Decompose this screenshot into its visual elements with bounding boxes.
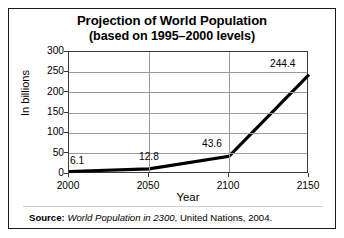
x-axis-title: Year [68,191,308,203]
source-rest: , United Nations, 2004. [175,212,273,223]
x-axis-tick-mark [228,173,229,177]
y-axis-tick-label: 200 [38,87,64,97]
plot-area [68,51,308,173]
data-point-label: 244.4 [270,59,296,69]
x-axis-tick-label: 2100 [205,181,251,191]
x-axis-tick-mark [308,173,309,177]
y-axis-tick-mark [64,132,68,133]
y-axis-tick-label: 0 [38,168,64,178]
x-axis-tick-label: 2050 [125,181,171,191]
source-label: Source: [29,212,65,223]
gridline-horizontal [69,92,307,93]
y-axis-tick-label: 100 [38,127,64,137]
y-axis-tick-label: 300 [38,46,64,56]
y-axis-tick-mark [64,51,68,52]
chart-title-subtitle: (based on 1995–2000 levels) [9,29,335,44]
chart-title-line-1: Projection of World Population [9,13,335,29]
gridline-horizontal [69,153,307,154]
gridline-horizontal [69,133,307,134]
x-axis-tick-label: 2150 [285,181,331,191]
x-axis-tick-mark [148,173,149,177]
gridline-vertical [229,52,230,172]
source-work-title: World Population in 2300 [67,212,174,223]
y-axis-title: In billions [19,57,31,129]
chart-figure: Projection of World Population (based on… [8,8,336,229]
chart-title: Projection of World Population (based on… [9,13,335,43]
y-axis-tick-label: 150 [38,107,64,117]
x-axis-tick-mark [68,173,69,177]
y-axis-tick-mark [64,71,68,72]
y-axis-tick-mark [64,112,68,113]
y-axis-tick-mark [64,152,68,153]
data-point-label: 43.6 [202,139,222,149]
gridline-horizontal [69,113,307,114]
y-axis-tick-mark [64,91,68,92]
data-point-label: 6.1 [70,156,84,166]
y-axis-tick-label: 250 [38,66,64,76]
y-axis-tick-label: 50 [38,148,64,158]
gridline-horizontal [69,72,307,73]
x-axis-tick-label: 2000 [45,181,91,191]
data-point-label: 12.8 [139,152,159,162]
y-axis-tick-labels: 050100150200250300 [36,51,64,173]
source-note: Source: World Population in 2300, United… [29,212,272,223]
source-divider [23,206,323,207]
